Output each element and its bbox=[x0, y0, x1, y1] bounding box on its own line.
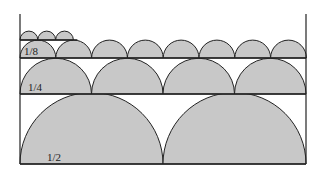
semicircle bbox=[56, 40, 92, 58]
semicircle bbox=[92, 40, 128, 58]
semicircle bbox=[38, 31, 56, 40]
label-eighth: 1/8 bbox=[24, 45, 39, 57]
label-half: 1/2 bbox=[47, 151, 61, 163]
semicircle bbox=[235, 40, 271, 58]
semicircle bbox=[163, 92, 306, 164]
semicircle bbox=[20, 31, 38, 40]
semicircle bbox=[235, 58, 307, 94]
semicircle bbox=[163, 58, 235, 94]
semicircle-rows bbox=[20, 31, 306, 164]
semicircle bbox=[271, 40, 307, 58]
semicircle bbox=[127, 40, 163, 58]
semicircle bbox=[163, 40, 199, 58]
label-quarter: 1/4 bbox=[28, 81, 43, 93]
semicircle bbox=[20, 92, 163, 164]
semicircle-diagram: 1/2 1/4 1/8 bbox=[0, 0, 327, 177]
semicircle bbox=[199, 40, 235, 58]
semicircle bbox=[56, 31, 74, 40]
semicircle bbox=[92, 58, 164, 94]
